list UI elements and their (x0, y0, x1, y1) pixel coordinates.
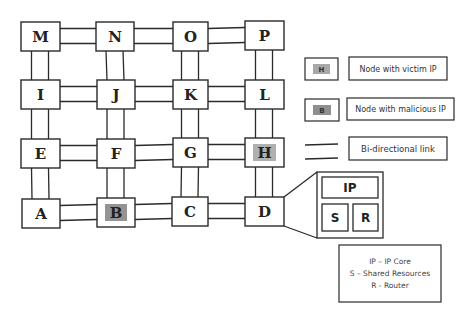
legend-link-line-top (305, 144, 338, 145)
link-P-L (256, 50, 273, 80)
link-A-B (60, 205, 97, 221)
node-label: H (257, 144, 271, 162)
link-G-C (181, 167, 199, 197)
node-detail-callout: IP S R (284, 172, 383, 238)
links-layer (32, 28, 273, 221)
node-D: D (245, 197, 284, 226)
node-K: K (173, 80, 208, 109)
node-label: P (259, 27, 270, 45)
link-J-K (135, 87, 173, 102)
node-label: K (184, 86, 198, 104)
node-O: O (173, 22, 208, 51)
legend-malicious: B Node with malicious IP (305, 98, 454, 121)
callout-line-top (284, 172, 317, 197)
node-label: J (110, 86, 119, 104)
link-J-F (107, 109, 124, 139)
legend-victim-label: Node with victim IP (359, 65, 436, 74)
node-label: F (111, 145, 122, 163)
legend-link-label: Bi-directional link (361, 144, 435, 154)
node-label: G (184, 144, 197, 162)
node-J: J (97, 80, 135, 109)
node-H: H (245, 138, 284, 167)
key-line-r: R - Router (371, 281, 409, 290)
link-G-H (208, 145, 245, 160)
node-P: P (245, 21, 284, 50)
node-label: I (37, 86, 44, 104)
link-O-K (182, 51, 199, 80)
link-K-L (208, 87, 245, 102)
nodes-layer: MNOPIJKLEFGHABCD (21, 21, 284, 228)
link-M-N (60, 29, 96, 44)
mesh-diagram: MNOPIJKLEFGHABCD IP S R H Node with vict… (0, 0, 475, 320)
link-F-G (135, 145, 173, 161)
link-E-F (60, 146, 97, 161)
link-H-D (256, 167, 273, 197)
link-B-C (135, 204, 172, 220)
shared-resources-label: S (331, 211, 340, 225)
node-C: C (172, 197, 208, 226)
key-line-s: S – Shared Resources (350, 269, 430, 278)
node-label: A (34, 205, 47, 223)
node-label: B (110, 204, 123, 222)
node-label: M (32, 28, 49, 46)
node-label: O (184, 28, 197, 46)
link-N-J (106, 51, 124, 80)
link-C-D (208, 204, 245, 219)
node-E: E (21, 139, 60, 168)
node-label: L (259, 86, 270, 104)
legend-victim-chip-label: H (319, 66, 325, 74)
node-N: N (96, 22, 134, 51)
node-label: E (35, 145, 46, 163)
link-N-O (134, 29, 173, 44)
link-I-J (60, 87, 97, 102)
link-O-P (208, 28, 245, 44)
legend-malicious-chip-label: B (319, 107, 324, 115)
node-label: D (258, 203, 271, 221)
ip-core-label: IP (343, 181, 356, 195)
legend-victim: H Node with victim IP (305, 57, 447, 80)
link-K-G (182, 109, 199, 138)
node-label: C (184, 203, 196, 221)
node-M: M (21, 22, 60, 51)
node-B: B (97, 198, 135, 227)
link-L-H (256, 109, 273, 138)
link-M-I (32, 51, 49, 80)
node-G: G (173, 138, 208, 167)
link-I-E (32, 109, 49, 139)
callout-line-bottom (284, 226, 317, 238)
link-E-A (32, 168, 50, 199)
node-label: N (108, 28, 122, 46)
key-line-ip: IP – IP Core (369, 257, 411, 266)
legend-link-line-bottom (305, 158, 338, 159)
legend-malicious-label: Node with malicious IP (355, 105, 446, 114)
node-I: I (21, 80, 60, 109)
node-A: A (22, 199, 60, 228)
legend-link: Bi-directional link (305, 137, 447, 160)
node-F: F (97, 139, 135, 168)
node-L: L (245, 80, 284, 109)
link-F-B (107, 168, 124, 198)
legend-key-box: IP – IP Core S – Shared Resources R - Ro… (339, 245, 441, 302)
router-label: R (361, 211, 370, 225)
